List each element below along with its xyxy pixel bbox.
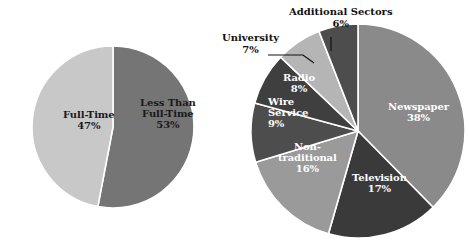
slice-label-line1: Newspaper	[388, 101, 449, 112]
slice-label-less-than-full-time: Less Than Full-Time 53%	[140, 97, 196, 131]
callout-value: 6%	[289, 18, 393, 30]
media-sector-pie	[251, 24, 465, 238]
slice-value: 53%	[140, 119, 196, 130]
callout-label-university: University 7%	[222, 32, 279, 55]
slice-value: 8%	[283, 83, 315, 94]
slice-label-television: Television 17%	[352, 172, 407, 194]
chart-figure: uage nd er Less Than Full-Time 53% Full-…	[0, 0, 469, 243]
slice-label-newspaper: Newspaper 38%	[388, 101, 449, 123]
callout-label-text: University	[222, 32, 279, 43]
slice-label-line1: Television	[352, 172, 407, 183]
slice-value: 16%	[278, 163, 337, 174]
callout-label-text: Additional Sectors	[289, 6, 393, 17]
slice-label-non-traditional: Non- traditional 16%	[278, 141, 337, 175]
slice-label-wire-service: Wire Service 9%	[268, 96, 308, 130]
slice-value: 47%	[63, 120, 115, 131]
slice-value: 9%	[268, 118, 308, 129]
slice-label-line2: Full-Time	[142, 108, 194, 119]
slice-label-line1: Full-Time	[63, 109, 115, 120]
slice-value: 38%	[388, 112, 449, 123]
slice-label-line1: Non-	[294, 141, 321, 152]
slice-label-line1: Radio	[283, 72, 315, 83]
callout-value: 7%	[222, 44, 279, 56]
slice-value: 17%	[352, 183, 407, 194]
slice-label-line1: Less Than	[140, 97, 196, 108]
slice-label-line1: Wire	[268, 96, 294, 107]
slice-label-radio: Radio 8%	[283, 72, 315, 94]
slice-label-line2: Service	[268, 107, 308, 118]
callout-label-additional-sectors: Additional Sectors 6%	[289, 6, 393, 29]
slice-label-line2: traditional	[278, 152, 337, 163]
slice-label-full-time: Full-Time 47%	[63, 109, 115, 131]
